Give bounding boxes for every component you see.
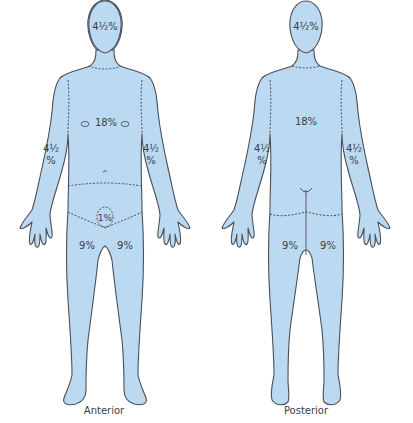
anterior-right-arm-label-pct: % bbox=[146, 155, 156, 166]
anterior-figure: 4½% 18% 4½ % 4½ % 1% 9% 9% Anterior bbox=[20, 0, 190, 416]
anterior-caption: Anterior bbox=[84, 405, 125, 416]
posterior-caption: Posterior bbox=[284, 405, 329, 416]
posterior-right-arm-label-pct: % bbox=[349, 155, 359, 166]
posterior-figure: 4½% 18% 4½ % 4½ % 9% 9% Posterior bbox=[222, 1, 390, 416]
posterior-trunk-label: 18% bbox=[295, 116, 317, 127]
anterior-head-label: 4½% bbox=[92, 21, 118, 32]
anterior-right-leg-label: 9% bbox=[117, 240, 133, 251]
anterior-left-arm-label: 4½ bbox=[43, 143, 59, 154]
anterior-left-leg-label: 9% bbox=[79, 240, 95, 251]
posterior-head-label: 4½% bbox=[293, 21, 319, 32]
anterior-left-arm-label-pct: % bbox=[46, 155, 56, 166]
posterior-left-leg-label: 9% bbox=[282, 240, 298, 251]
anterior-perineum-label: 1% bbox=[98, 213, 113, 223]
posterior-left-arm-label: 4½ bbox=[254, 143, 270, 154]
anterior-trunk-label: 18% bbox=[95, 117, 117, 128]
anterior-right-arm-label: 4½ bbox=[143, 143, 159, 154]
posterior-right-leg-label: 9% bbox=[320, 240, 336, 251]
posterior-right-arm-label: 4½ bbox=[346, 143, 362, 154]
rule-of-nines-diagram: 4½% 18% 4½ % 4½ % 1% 9% 9% Anterior 4½% … bbox=[0, 0, 413, 423]
posterior-left-arm-label-pct: % bbox=[257, 155, 267, 166]
